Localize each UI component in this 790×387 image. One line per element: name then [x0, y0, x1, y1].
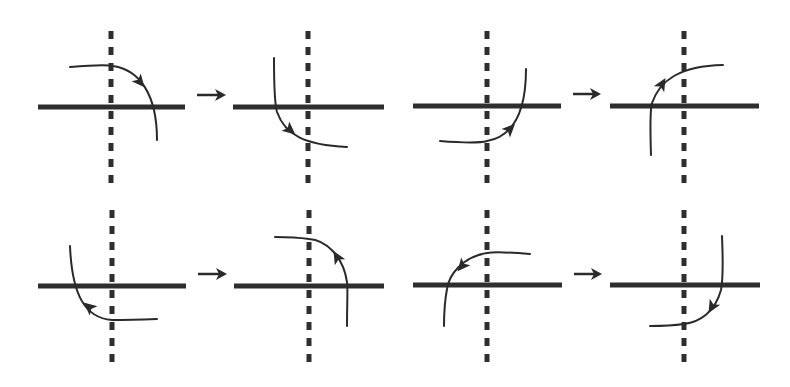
arrowhead-icon — [328, 248, 345, 265]
panel-2 — [233, 31, 384, 184]
arrowhead-icon — [654, 75, 671, 92]
panel-8 — [610, 210, 760, 363]
transition-arrow-3-to-4 — [573, 88, 601, 100]
transition-arrow-5-to-6 — [198, 268, 227, 280]
transition-arrow-1-to-2 — [197, 89, 226, 101]
rotation-diagram — [0, 0, 790, 387]
panel-3 — [413, 31, 561, 184]
transition-arrow-7-to-8 — [574, 268, 602, 280]
curved-path — [650, 65, 723, 155]
panel-7 — [413, 210, 562, 363]
panel-6 — [234, 210, 384, 363]
panel-5 — [38, 210, 186, 363]
transition-arrows-group — [197, 88, 602, 280]
panel-4 — [610, 31, 759, 184]
panel-1 — [38, 31, 185, 184]
panels-group — [38, 31, 760, 363]
